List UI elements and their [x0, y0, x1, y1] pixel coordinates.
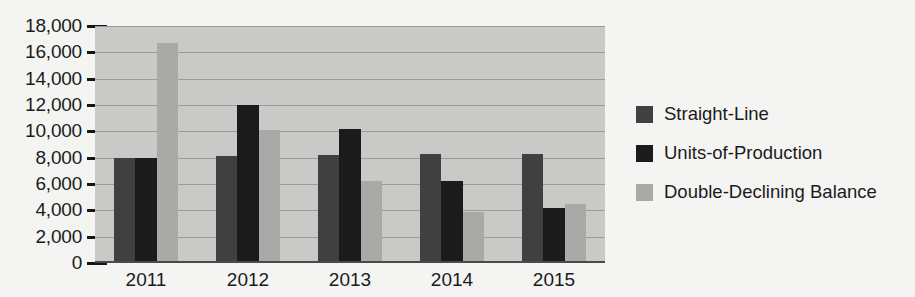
y-axis-tick-label: 0 [0, 253, 82, 272]
bar [441, 181, 463, 263]
y-axis-tick-label: 16,000 [0, 42, 82, 61]
x-axis-tick-label: 2015 [503, 269, 605, 291]
bar [420, 154, 442, 263]
legend-label: Double-Declining Balance [664, 180, 877, 204]
legend-label: Units-of-Production [664, 141, 822, 165]
bar [237, 105, 259, 263]
legend-item: Double-Declining Balance [636, 178, 911, 217]
bar [339, 129, 361, 263]
bar [565, 204, 587, 263]
bar [318, 155, 340, 263]
x-axis-tick-label: 2012 [197, 269, 299, 291]
bar-group [95, 26, 197, 263]
bar-group [299, 26, 401, 263]
bar [259, 130, 281, 263]
y-axis-tick-label: 4,000 [0, 200, 82, 219]
legend-label: Straight-Line [664, 102, 769, 126]
x-axis-tick-label: 2011 [95, 269, 197, 291]
y-axis-tick-label: 6,000 [0, 174, 82, 193]
x-axis-tick-label: 2014 [401, 269, 503, 291]
bar [463, 212, 485, 263]
y-axis-tick-label: 12,000 [0, 95, 82, 114]
bar [522, 154, 544, 263]
chart-legend: Straight-LineUnits-of-ProductionDouble-D… [636, 100, 911, 217]
legend-swatch-icon [636, 145, 653, 162]
bar [543, 208, 565, 263]
y-axis-tick-label: 14,000 [0, 69, 82, 88]
legend-item: Straight-Line [636, 100, 911, 139]
x-axis-tick-label: 2013 [299, 269, 401, 291]
bar-group [197, 26, 299, 263]
bar [361, 181, 383, 263]
y-axis-tick-label: 18,000 [0, 16, 82, 35]
bar [216, 156, 238, 263]
bar [157, 43, 179, 263]
bar [135, 158, 157, 263]
y-axis-tick-label: 8,000 [0, 148, 82, 167]
y-axis-tick-label: 2,000 [0, 227, 82, 246]
bar-group [503, 26, 605, 263]
y-axis-tick-label: 10,000 [0, 121, 82, 140]
legend-item: Units-of-Production [636, 139, 911, 178]
bar-chart: 18,00016,00014,00012,00010,0008,0006,000… [0, 0, 915, 297]
legend-swatch-icon [636, 106, 653, 123]
bar [114, 158, 136, 263]
bar-group [401, 26, 503, 263]
y-axis-labels: 18,00016,00014,00012,00010,0008,0006,000… [0, 0, 82, 297]
legend-swatch-icon [636, 184, 653, 201]
x-axis-baseline [95, 261, 605, 263]
plot-area [95, 26, 605, 263]
